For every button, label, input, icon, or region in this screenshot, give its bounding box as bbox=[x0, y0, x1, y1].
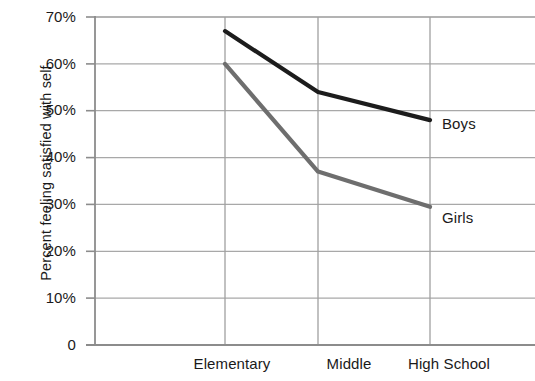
horizontal-gridlines bbox=[95, 17, 535, 298]
y-tick-label-0: 0 bbox=[16, 336, 76, 353]
series-label-boys: Boys bbox=[442, 115, 476, 132]
y-tick-label-10: 10% bbox=[16, 289, 76, 306]
x-tick-label-high-school: High School bbox=[408, 355, 490, 372]
series-line-girls bbox=[225, 64, 430, 207]
y-tick-label-40: 40% bbox=[16, 148, 76, 165]
y-tick-label-20: 20% bbox=[16, 242, 76, 259]
x-tick-label-middle: Middle bbox=[327, 355, 372, 372]
y-tick-label-50: 50% bbox=[16, 101, 76, 118]
y-tick-label-70: 70% bbox=[16, 8, 76, 25]
x-tick-label-elementary: Elementary bbox=[194, 355, 271, 372]
data-series-group bbox=[225, 31, 430, 207]
y-tick-label-60: 60% bbox=[16, 55, 76, 72]
plot-area bbox=[0, 0, 535, 381]
series-label-girls: Girls bbox=[442, 209, 473, 226]
category-gridlines bbox=[225, 17, 430, 345]
y-axis-ticks bbox=[86, 17, 95, 345]
y-tick-label-30: 30% bbox=[16, 195, 76, 212]
line-chart: Percent feeling satisfied with self 70% … bbox=[0, 0, 535, 381]
series-line-boys bbox=[225, 31, 430, 120]
